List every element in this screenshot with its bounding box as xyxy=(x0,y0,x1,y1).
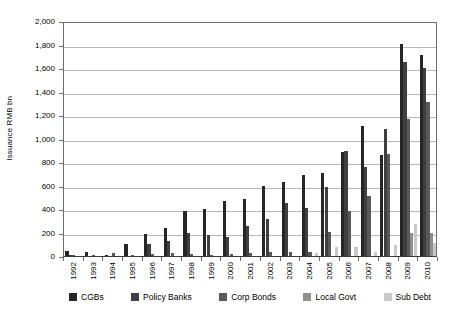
legend-item-corp-bonds[interactable]: Corp Bonds xyxy=(219,292,276,302)
x-axis-tick-label: 2001 xyxy=(246,262,255,280)
legend-swatch-icon xyxy=(131,293,139,301)
bar-sub-debt xyxy=(335,247,338,256)
legend-swatch-icon xyxy=(384,293,392,301)
bar-cluster xyxy=(84,23,104,256)
bar-corp-bonds xyxy=(210,255,213,256)
bond-issuance-chart: Issuance RMB bn 02004006008001,0001,2001… xyxy=(0,0,452,318)
legend-label: Local Govt xyxy=(315,292,356,302)
bar-cluster xyxy=(399,23,419,256)
x-axis-tick-mark xyxy=(220,257,221,261)
y-axis-tick-label: 600 xyxy=(14,182,55,191)
legend-item-sub-debt[interactable]: Sub Debt xyxy=(384,292,431,302)
bar-policy-banks xyxy=(207,235,210,256)
bar-cluster xyxy=(64,23,84,256)
x-axis-tick-mark xyxy=(437,257,438,261)
bar-corp-bonds xyxy=(230,254,233,256)
legend-label: Policy Banks xyxy=(143,292,192,302)
y-axis-tick-label: 1,600 xyxy=(14,64,55,73)
x-axis-tick-label: 1998 xyxy=(187,262,196,280)
bar-sub-debt xyxy=(414,224,417,256)
bar-cluster xyxy=(162,23,182,256)
bar-corp-bonds xyxy=(171,253,174,256)
y-axis-title: Issuance RMB bn xyxy=(2,0,16,257)
bar-policy-banks xyxy=(187,233,190,256)
x-axis-tick-label: 1995 xyxy=(128,262,137,280)
y-axis-tick-label: 400 xyxy=(14,205,55,214)
bar-policy-banks xyxy=(246,226,249,256)
bar-cluster xyxy=(359,23,379,256)
x-axis-tick-mark xyxy=(201,257,202,261)
bar-cluster xyxy=(320,23,340,256)
x-axis-tick-label: 2008 xyxy=(384,262,393,280)
x-axis-tick-label: 1996 xyxy=(148,262,157,280)
bar-cluster xyxy=(123,23,143,256)
bar-corp-bonds xyxy=(348,211,351,256)
legend-swatch-icon xyxy=(219,293,227,301)
bar-cgbs xyxy=(124,244,127,256)
bar-corp-bonds xyxy=(367,196,370,256)
x-axis-tick-mark xyxy=(83,257,84,261)
bar-cluster xyxy=(241,23,261,256)
bar-corp-bonds xyxy=(112,253,115,256)
y-axis-tick-label: 1,200 xyxy=(14,111,55,120)
bar-cluster xyxy=(379,23,399,256)
x-axis-tick-mark xyxy=(339,257,340,261)
legend-item-cgbs[interactable]: CGBs xyxy=(69,292,104,302)
bar-sub-debt xyxy=(354,247,357,256)
x-axis-tick-label: 2007 xyxy=(364,262,373,280)
x-axis-tick-mark xyxy=(102,257,103,261)
x-axis-tick-mark xyxy=(319,257,320,261)
x-axis-tick-label: 1994 xyxy=(108,262,117,280)
x-axis-tick-label: 2010 xyxy=(423,262,432,280)
legend-item-local-govt[interactable]: Local Govt xyxy=(303,292,356,302)
x-axis-tick-mark xyxy=(260,257,261,261)
bar-policy-banks xyxy=(305,208,308,256)
bar-corp-bonds xyxy=(289,252,292,256)
bar-corp-bonds xyxy=(190,254,193,256)
bar-cluster xyxy=(340,23,360,256)
bar-corp-bonds xyxy=(249,253,252,256)
bar-cluster xyxy=(300,23,320,256)
y-axis-tick-label: 0 xyxy=(14,252,55,261)
bar-sub-debt xyxy=(315,253,318,256)
y-axis-tick-label: 1,400 xyxy=(14,88,55,97)
plot-area xyxy=(63,22,437,257)
bar-policy-banks xyxy=(266,219,269,256)
bar-cgbs xyxy=(85,252,88,256)
bar-corp-bonds xyxy=(151,254,154,256)
x-axis-tick-mark xyxy=(240,257,241,261)
y-axis-tick-label: 800 xyxy=(14,158,55,167)
x-axis-tick-label: 1997 xyxy=(167,262,176,280)
bar-cluster xyxy=(202,23,222,256)
x-axis-tick-mark xyxy=(378,257,379,261)
x-axis-tick-mark xyxy=(142,257,143,261)
bar-sub-debt xyxy=(433,243,436,256)
legend-label: Sub Debt xyxy=(396,292,431,302)
chart-legend: CGBsPolicy BanksCorp BondsLocal GovtSub … xyxy=(63,292,437,302)
bar-cluster xyxy=(143,23,163,256)
x-axis-tick-mark xyxy=(398,257,399,261)
bar-corp-bonds xyxy=(308,252,311,256)
x-axis-tick-label: 1999 xyxy=(207,262,216,280)
bar-corp-bonds xyxy=(328,232,331,256)
x-axis-tick-label: 1993 xyxy=(89,262,98,280)
x-axis-tick-mark xyxy=(161,257,162,261)
y-axis-tick-label: 1,000 xyxy=(14,135,55,144)
bar-sub-debt xyxy=(374,252,377,256)
x-axis-tick-mark xyxy=(181,257,182,261)
bar-cgbs xyxy=(105,255,108,256)
bar-cluster xyxy=(103,23,123,256)
x-axis-tick-label: 2002 xyxy=(266,262,275,280)
bar-corp-bonds xyxy=(269,252,272,256)
x-axis-tick-label: 2005 xyxy=(325,262,334,280)
x-axis-tick-label: 2004 xyxy=(305,262,314,280)
legend-swatch-icon xyxy=(69,293,77,301)
legend-item-policy-banks[interactable]: Policy Banks xyxy=(131,292,192,302)
x-axis-tick-label: 2003 xyxy=(285,262,294,280)
legend-swatch-icon xyxy=(303,293,311,301)
bar-policy-banks xyxy=(285,203,288,256)
y-axis-tick-label: 200 xyxy=(14,229,55,238)
x-axis-tick-mark xyxy=(122,257,123,261)
legend-label: CGBs xyxy=(81,292,104,302)
y-axis-title-label: Issuance RMB bn xyxy=(5,96,14,161)
